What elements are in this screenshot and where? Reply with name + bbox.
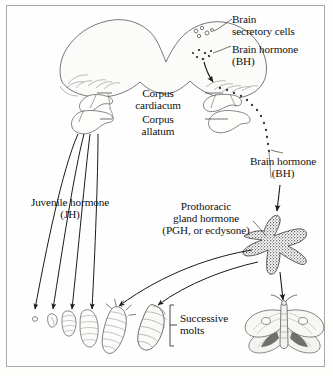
label-brain-hormone-top: Brain hormone (BH) xyxy=(232,43,298,67)
successive-molts-bracket xyxy=(170,305,177,346)
corpus-cardiacum-right xyxy=(203,94,241,111)
leader-brain-hormone-right xyxy=(271,150,283,153)
stage-larva-instar-3 xyxy=(80,310,98,347)
pgh-curved-arrows xyxy=(119,250,258,306)
juvenile-hormone-arrows xyxy=(35,134,98,309)
stage-larva-instar-2 xyxy=(62,311,76,336)
pgh-arrow-to-pupa xyxy=(158,262,258,305)
jh-arrow-3 xyxy=(72,134,90,309)
stage-egg xyxy=(32,317,37,322)
stage-pupa xyxy=(133,303,171,354)
stage-adult-moth xyxy=(245,295,324,353)
pgh-arrow-to-larva xyxy=(119,250,252,306)
stage-larva-instar-1 xyxy=(48,314,58,327)
label-corpus-allatum: Corpus allatum xyxy=(112,113,204,137)
moth-eyespot-left xyxy=(262,318,271,325)
stage-larva-instar-4 xyxy=(93,296,139,358)
jh-arrow-4 xyxy=(92,134,98,309)
corpus-allatum-left xyxy=(71,111,113,134)
label-prothoracic-gland-hormone: Prothoracic gland hormone (PGH, or ecdys… xyxy=(148,200,264,236)
label-successive-molts: Successive molts xyxy=(180,312,228,336)
label-brain-secretory-cells: Brain secretory cells xyxy=(232,13,295,37)
label-corpus-cardiacum: Corpus cardiacum xyxy=(112,87,204,111)
corpus-allatum-right xyxy=(209,111,251,133)
label-juvenile-hormone: Juvenile hormone (JH) xyxy=(8,196,132,220)
jh-arrow-1 xyxy=(35,134,78,309)
arrow-bh-to-prothoracic-gland xyxy=(277,185,280,211)
corpus-cardiacum-left xyxy=(79,95,112,113)
metamorphosis-hormone-figure: Brain secretory cells Brain hormone (BH)… xyxy=(0,0,333,376)
label-brain-hormone-right: Brain hormone (BH) xyxy=(236,155,330,179)
moth-eyespot-right xyxy=(299,318,308,325)
arrow-pgh-to-adult-moth xyxy=(280,272,283,300)
